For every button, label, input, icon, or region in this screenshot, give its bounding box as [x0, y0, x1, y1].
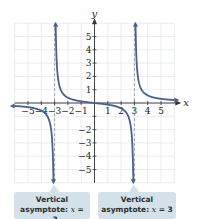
y-tick-label: −5 — [78, 165, 92, 175]
callout-leaders — [50, 185, 140, 192]
y-tick-label: 5 — [86, 32, 92, 42]
y-tick-label: −2 — [78, 125, 91, 135]
y-axis-label: y — [91, 8, 98, 19]
curve-arrow-up-icon — [133, 22, 138, 27]
callout-line1: Vertical — [98, 195, 176, 205]
curve-arrow-down-icon — [51, 179, 56, 184]
x-axis-label: x — [183, 97, 189, 108]
callout-line2: asymptote: x = −3 — [14, 205, 90, 219]
x-tick-label: −1 — [75, 106, 88, 116]
callout-line1: Vertical — [14, 195, 90, 205]
y-tick-label: 2 — [86, 71, 92, 81]
graph: xy−5−4−3−2−11234554321−2−3−4−5 — [0, 0, 197, 219]
y-tick-label: −4 — [78, 151, 92, 161]
callout-pointer-left — [50, 185, 60, 192]
y-tick-label: −3 — [78, 138, 92, 148]
curve-arrow-down-icon — [131, 179, 136, 184]
x-tick-label: 5 — [158, 106, 164, 116]
y-tick-label: 1 — [86, 85, 92, 95]
x-tick-label: 3 — [132, 106, 138, 116]
callout-asymptote-right: Vertical asymptote: x = 3 — [98, 192, 176, 219]
callout-line2: asymptote: x = 3 — [98, 205, 176, 215]
y-tick-label: 4 — [86, 45, 92, 55]
curve-arrow-up-icon — [53, 22, 58, 27]
callout-asymptote-left: Vertical asymptote: x = −3 — [14, 192, 90, 219]
x-tick-label: −3 — [48, 106, 62, 116]
axes: xy−5−4−3−2−11234554321−2−3−4−5 — [15, 8, 190, 183]
x-tick-label: 1 — [105, 106, 111, 116]
callout-pointer-right — [129, 185, 139, 192]
x-tick-label: −2 — [61, 106, 74, 116]
x-tick-label: 4 — [145, 106, 151, 116]
curve-arrow-left-icon — [10, 103, 15, 108]
y-tick-label: 3 — [86, 58, 92, 68]
